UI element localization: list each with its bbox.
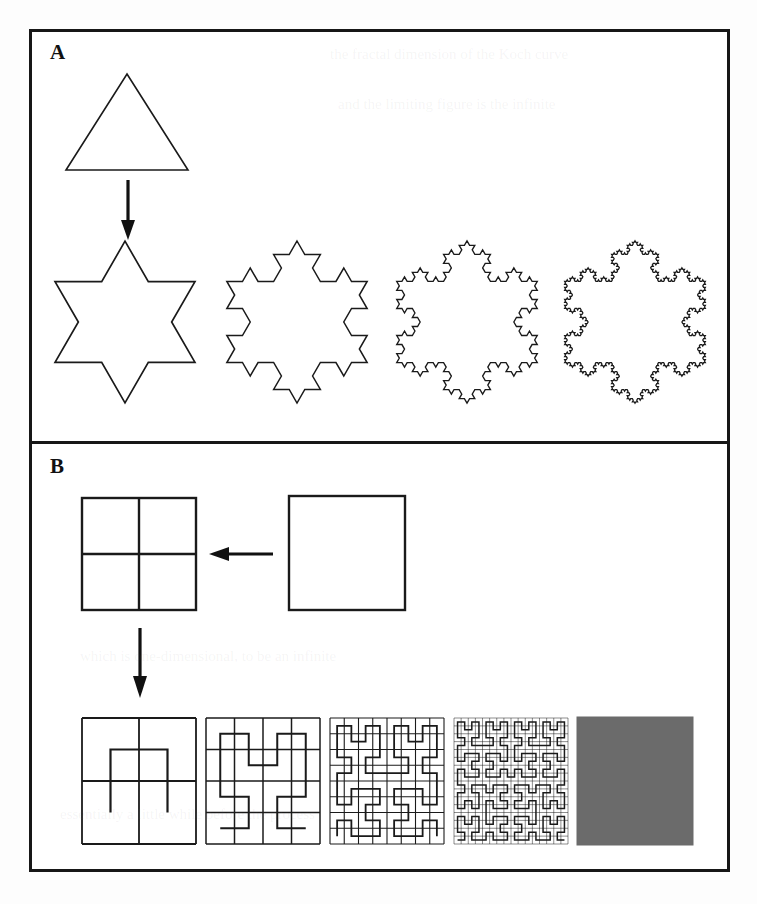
panel-b-down-arrow bbox=[124, 628, 156, 700]
koch-iteration-3 bbox=[392, 238, 542, 406]
koch-iteration-2 bbox=[222, 238, 372, 406]
figure-outer-frame: A B bbox=[29, 29, 730, 872]
panel-b-left-arrow bbox=[207, 543, 273, 565]
koch-iteration-1 bbox=[50, 238, 200, 406]
figure-page: A B bbox=[0, 0, 757, 904]
hilbert-iteration-2 bbox=[204, 716, 322, 846]
panel-a-label: A bbox=[50, 40, 66, 65]
hilbert-iteration-3 bbox=[328, 716, 446, 846]
quartered-square bbox=[80, 496, 198, 612]
koch-initiator-triangle bbox=[62, 68, 192, 176]
panel-b: B bbox=[32, 444, 727, 875]
panel-b-label: B bbox=[50, 454, 65, 479]
hilbert-iteration-4 bbox=[452, 716, 570, 846]
panel-a-down-arrow bbox=[112, 180, 144, 242]
panel-a: A bbox=[32, 32, 727, 444]
hilbert-limit-filled-square bbox=[576, 716, 694, 846]
koch-iteration-4 bbox=[560, 238, 710, 406]
hilbert-iteration-1 bbox=[80, 716, 198, 846]
plain-square-initiator bbox=[287, 494, 407, 612]
